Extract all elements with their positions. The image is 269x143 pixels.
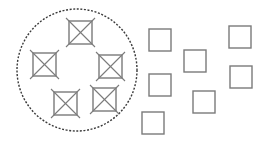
plain-squares-group — [142, 26, 252, 134]
plain-square-7 — [142, 112, 164, 134]
crossed-square-2 — [30, 50, 59, 79]
set-diagram — [0, 0, 269, 143]
plain-square-4 — [149, 74, 171, 96]
plain-square-2 — [184, 50, 206, 72]
crossed-squares-group — [30, 18, 125, 118]
plain-square-6 — [193, 91, 215, 113]
plain-square-5 — [230, 66, 252, 88]
crossed-square-3 — [96, 52, 125, 81]
plain-square-3 — [229, 26, 251, 48]
crossed-square-1 — [66, 18, 95, 47]
crossed-square-5 — [90, 85, 119, 114]
crossed-square-4 — [51, 89, 80, 118]
plain-square-1 — [149, 29, 171, 51]
diagram-canvas — [0, 0, 269, 143]
